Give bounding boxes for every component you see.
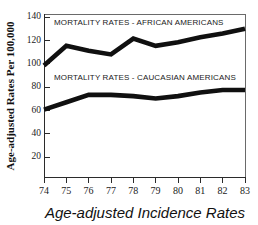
series-line-caucasian-americans <box>44 90 245 110</box>
series-annotation-african-americans: MORTALITY RATES - AFRICAN AMERICANS <box>54 18 224 27</box>
x-axis-tick-labels: 74 75 76 77 78 79 80 81 82 83 <box>39 185 250 196</box>
y-tick-label: 100 <box>27 58 42 68</box>
x-tick-label: 75 <box>61 185 71 196</box>
x-tick-label: 78 <box>128 185 138 196</box>
y-axis-label: Age-adjusted Rates Per 100,000 <box>4 21 16 170</box>
x-tick-label: 83 <box>240 185 250 196</box>
x-axis-label: Age-adjusted Incidence Rates <box>44 204 246 221</box>
y-tick-label: 20 <box>32 151 42 161</box>
chart-container: 140 120 100 80 60 40 20 74 75 76 77 <box>0 0 258 225</box>
y-tick-label: 60 <box>32 105 42 115</box>
x-tick-label: 81 <box>195 185 205 196</box>
x-tick-label: 82 <box>218 185 228 196</box>
y-axis-tick-labels: 140 120 100 80 60 40 20 <box>27 11 42 161</box>
x-tick-label: 80 <box>173 185 183 196</box>
series-annotation-caucasian-americans: MORTALITY RATES - CAUCASIAN AMERICANS <box>54 73 236 82</box>
x-tick-label: 74 <box>39 185 49 196</box>
y-tick-label: 120 <box>27 35 42 45</box>
x-tick-label: 77 <box>106 185 116 196</box>
y-tick-label: 40 <box>32 128 42 138</box>
y-tick-label: 80 <box>32 81 42 91</box>
y-tick-label: 140 <box>27 11 42 21</box>
series-line-african-americans <box>44 29 245 66</box>
x-tick-label: 79 <box>151 185 161 196</box>
line-chart: 140 120 100 80 60 40 20 74 75 76 77 <box>0 0 258 225</box>
x-tick-label: 76 <box>84 185 94 196</box>
y-axis-ticks <box>44 17 50 157</box>
x-axis-ticks <box>44 177 245 183</box>
